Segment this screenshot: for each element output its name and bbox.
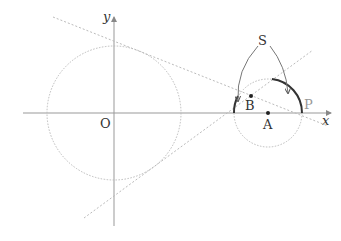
diagram-canvas: y x O S B A P — [0, 0, 341, 241]
label-s: S — [258, 33, 267, 48]
curve-s-right — [270, 46, 288, 93]
origin-label: O — [100, 116, 111, 131]
y-axis-label: y — [102, 9, 111, 24]
upper-tangent-line — [53, 17, 328, 126]
label-b: B — [245, 98, 255, 113]
point-a — [266, 111, 270, 115]
curve-s-left — [238, 46, 258, 101]
x-axis-label: x — [322, 113, 330, 128]
label-p: P — [304, 97, 313, 112]
label-a: A — [262, 117, 273, 132]
